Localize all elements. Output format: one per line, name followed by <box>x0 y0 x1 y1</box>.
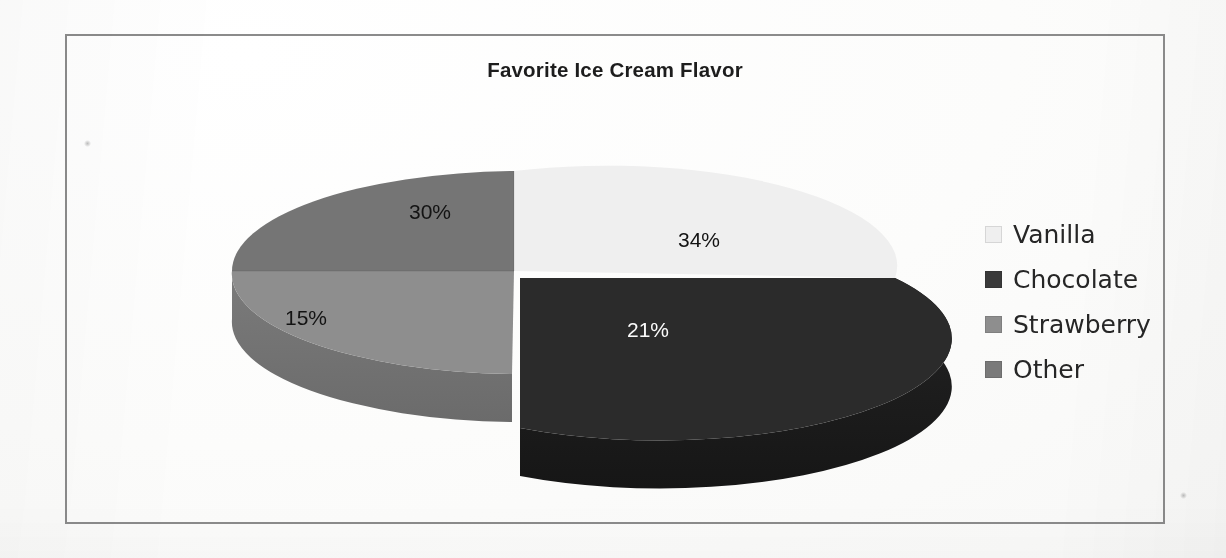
document-page: Favorite Ice Cream Flavor <box>0 0 1226 558</box>
legend-swatch-chocolate <box>985 271 1002 288</box>
legend-label-chocolate: Chocolate <box>1013 267 1138 292</box>
pie-label-strawberry: 15% <box>285 306 327 330</box>
legend-swatch-strawberry <box>985 316 1002 333</box>
pie-label-chocolate: 21% <box>627 318 669 342</box>
chart-title: Favorite Ice Cream Flavor <box>67 58 1163 82</box>
pie-chart-plot-area: 30% 34% 15% 21% <box>162 166 902 436</box>
chart-legend: Vanilla Chocolate Strawberry Other <box>985 212 1185 392</box>
legend-item-chocolate[interactable]: Chocolate <box>985 257 1185 302</box>
legend-label-strawberry: Strawberry <box>1013 312 1151 337</box>
pie-slice-vanilla <box>514 166 897 278</box>
pie-slice-other <box>232 171 514 271</box>
pie-label-vanilla: 34% <box>678 228 720 252</box>
pie-chart-svg <box>162 166 902 456</box>
legend-item-other[interactable]: Other <box>985 347 1185 392</box>
legend-item-strawberry[interactable]: Strawberry <box>985 302 1185 347</box>
legend-label-vanilla: Vanilla <box>1013 222 1095 247</box>
legend-swatch-vanilla <box>985 226 1002 243</box>
legend-swatch-other <box>985 361 1002 378</box>
scan-speck <box>1180 492 1187 499</box>
legend-item-vanilla[interactable]: Vanilla <box>985 212 1185 257</box>
legend-label-other: Other <box>1013 357 1084 382</box>
pie-label-other: 30% <box>409 200 451 224</box>
